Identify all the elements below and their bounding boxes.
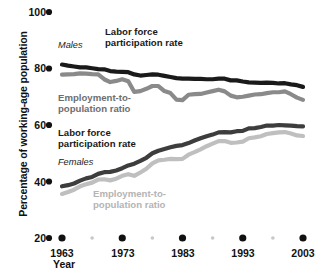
- series-line: [62, 132, 303, 194]
- y-axis-tick-dots: [46, 9, 52, 241]
- chart-container: Percentage of working-age population 100…: [0, 0, 325, 279]
- plot-area: [0, 0, 325, 279]
- data-series-lines: [62, 65, 303, 194]
- x-axis-major-tick-dots: [58, 234, 306, 241]
